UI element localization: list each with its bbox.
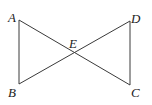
segment-bd: [19, 21, 130, 84]
label-b: B: [8, 85, 16, 100]
label-a: A: [7, 10, 16, 25]
geometry-diagram: A B C D E: [0, 0, 152, 105]
label-c: C: [131, 85, 140, 100]
label-e: E: [68, 36, 77, 51]
label-d: D: [130, 11, 141, 26]
